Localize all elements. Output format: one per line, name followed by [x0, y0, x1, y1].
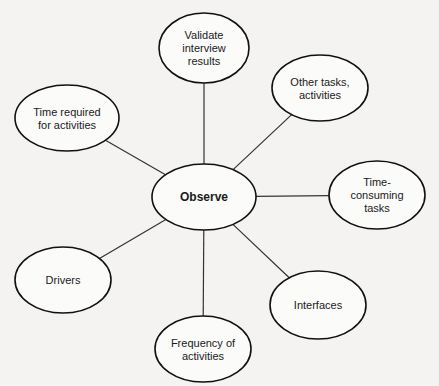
node-label: activities: [299, 89, 342, 101]
node-label: interview: [182, 42, 225, 54]
node-drivers: Drivers: [15, 247, 111, 313]
node-label: consuming: [350, 189, 403, 201]
node-time-required: Time requiredfor activities: [15, 85, 119, 151]
node-label: activities: [182, 350, 225, 362]
node-label: results: [188, 55, 221, 67]
node-label: tasks: [364, 202, 390, 214]
node-interfaces: Interfaces: [270, 271, 366, 339]
edge-observe-time-required: [105, 140, 165, 175]
node-label: Other tasks,: [290, 76, 349, 88]
node-label: Frequency of: [171, 337, 236, 349]
edge-observe-interfaces: [233, 224, 289, 277]
node-label: Drivers: [46, 274, 81, 286]
node-label: Validate: [185, 29, 224, 41]
mind-map-diagram: ValidateinterviewresultsOther tasks,acti…: [0, 0, 439, 386]
node-label: for activities: [38, 119, 97, 131]
node-label: Interfaces: [294, 299, 343, 311]
node-label: Observe: [180, 190, 228, 204]
node-validate: Validateinterviewresults: [159, 13, 249, 83]
node-label: Time-: [363, 176, 391, 188]
edge-observe-frequency: [203, 230, 204, 316]
node-frequency: Frequency ofactivities: [155, 316, 251, 382]
node-other-tasks: Other tasks,activities: [272, 55, 368, 121]
edge-observe-drivers: [99, 219, 165, 258]
node-time-consuming: Time-consumingtasks: [329, 161, 425, 229]
edge-observe-time-consuming: [256, 196, 329, 197]
node-observe: Observe: [152, 164, 256, 230]
edge-observe-other-tasks: [233, 115, 292, 170]
node-label: Time required: [33, 106, 100, 118]
nodes: ValidateinterviewresultsOther tasks,acti…: [15, 13, 425, 382]
